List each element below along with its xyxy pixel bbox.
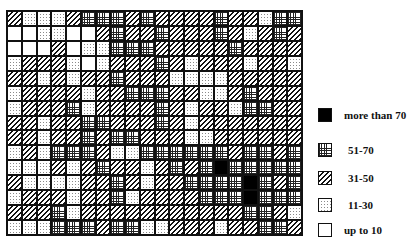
map-cell <box>273 116 288 131</box>
map-cell <box>125 145 140 160</box>
map-cell <box>110 160 125 175</box>
map-cell <box>155 145 170 160</box>
map-cell <box>110 41 125 56</box>
map-cell <box>110 86 125 101</box>
map-cell <box>258 116 273 131</box>
map-cell <box>258 145 273 160</box>
map-cell <box>258 56 273 71</box>
map-cell <box>273 205 288 220</box>
map-cell <box>66 220 81 235</box>
map-cell <box>7 205 22 220</box>
map-cell <box>7 130 22 145</box>
map-cell <box>140 56 155 71</box>
map-cell <box>273 41 288 56</box>
map-cell <box>140 190 155 205</box>
map-cell <box>51 71 66 86</box>
map-cell <box>125 116 140 131</box>
map-cell <box>243 116 258 131</box>
map-cell <box>214 41 229 56</box>
map-cell <box>7 26 22 41</box>
map-cell <box>96 11 111 26</box>
legend-item: up to 10 <box>318 222 382 238</box>
map-cell <box>81 190 96 205</box>
map-cell <box>66 116 81 131</box>
map-cell <box>96 56 111 71</box>
map-cell <box>81 56 96 71</box>
map-cell <box>243 101 258 116</box>
map-cell <box>37 41 52 56</box>
map-cell <box>37 190 52 205</box>
map-cell <box>51 220 66 235</box>
legend-label: up to 10 <box>344 224 382 236</box>
map-cell <box>81 86 96 101</box>
map-cell <box>66 26 81 41</box>
map-cell <box>125 56 140 71</box>
map-cell <box>228 86 243 101</box>
grid-map <box>6 10 303 236</box>
map-cell <box>81 175 96 190</box>
map-cell <box>140 145 155 160</box>
map-cell <box>228 190 243 205</box>
map-cell <box>184 205 199 220</box>
map-cell <box>214 11 229 26</box>
map-cell <box>258 41 273 56</box>
map-cell <box>287 220 302 235</box>
map-cell <box>66 101 81 116</box>
map-cell <box>169 86 184 101</box>
map-cell <box>243 220 258 235</box>
map-cell <box>243 130 258 145</box>
map-cell <box>51 56 66 71</box>
map-cell <box>184 41 199 56</box>
map-cell <box>22 160 37 175</box>
map-cell <box>214 160 229 175</box>
map-cell <box>96 175 111 190</box>
map-cell <box>169 160 184 175</box>
map-cell <box>22 71 37 86</box>
map-cell <box>51 130 66 145</box>
map-cell <box>22 26 37 41</box>
map-cell <box>37 86 52 101</box>
map-cell <box>199 26 214 41</box>
map-cell <box>7 11 22 26</box>
map-cell <box>214 145 229 160</box>
map-cell <box>214 130 229 145</box>
map-cell <box>22 130 37 145</box>
map-cell <box>37 130 52 145</box>
map-cell <box>66 71 81 86</box>
map-cell <box>273 101 288 116</box>
map-cell <box>184 160 199 175</box>
map-cell <box>214 71 229 86</box>
map-cell <box>96 26 111 41</box>
map-cell <box>37 175 52 190</box>
map-cell <box>228 26 243 41</box>
map-cell <box>184 220 199 235</box>
map-cell <box>37 101 52 116</box>
map-cell <box>287 130 302 145</box>
map-cell <box>155 205 170 220</box>
map-cell <box>199 130 214 145</box>
map-cell <box>228 71 243 86</box>
map-cell <box>184 130 199 145</box>
map-cell <box>140 160 155 175</box>
map-cell <box>81 26 96 41</box>
map-cell <box>51 26 66 41</box>
map-cell <box>287 11 302 26</box>
map-cell <box>258 86 273 101</box>
map-cell <box>110 130 125 145</box>
map-cell <box>184 26 199 41</box>
map-cell <box>228 116 243 131</box>
map-cell <box>37 71 52 86</box>
map-cell <box>81 130 96 145</box>
map-cell <box>140 71 155 86</box>
map-cell <box>169 116 184 131</box>
legend-swatch-icon <box>318 108 332 122</box>
map-cell <box>110 116 125 131</box>
map-cell <box>214 86 229 101</box>
map-cell <box>287 190 302 205</box>
map-cell <box>273 220 288 235</box>
map-cell <box>110 71 125 86</box>
map-cell <box>228 11 243 26</box>
map-cell <box>7 101 22 116</box>
legend-label: 11-30 <box>348 199 373 211</box>
map-cell <box>169 220 184 235</box>
